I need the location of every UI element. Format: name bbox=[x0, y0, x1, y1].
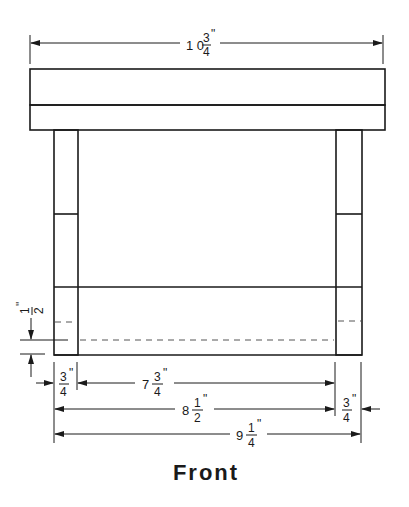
dimension-leg-offset: 1 2 " bbox=[14, 302, 68, 377]
dimension-outer-to-inner: 8 1 2 " bbox=[55, 392, 334, 425]
dim-outer-inner-unit: " bbox=[203, 392, 207, 406]
top-board-upper bbox=[30, 69, 385, 105]
dim-outer-inner-den: 2 bbox=[194, 411, 201, 425]
bottom-apron bbox=[54, 287, 362, 355]
dim-inner-span-num: 3 bbox=[154, 370, 161, 384]
dim-leg-offset-den: 2 bbox=[32, 307, 46, 314]
dim-outer-inner-num: 1 bbox=[194, 396, 201, 410]
dim-inner-span-whole: 7 bbox=[142, 377, 149, 392]
dim-overall-base-num: 1 bbox=[248, 421, 255, 435]
dim-outer-inner-whole: 8 bbox=[182, 403, 189, 418]
dimension-overall-top: 1 0 3 4 " bbox=[30, 27, 383, 64]
dim-overall-top-whole: 1 0 bbox=[186, 38, 204, 53]
dim-right-leg-unit: " bbox=[352, 392, 356, 406]
dimension-overall-base: 9 1 4 " bbox=[55, 417, 360, 450]
dim-inner-span-unit: " bbox=[163, 366, 167, 380]
dim-overall-base-unit: " bbox=[257, 417, 261, 431]
front-view-drawing: 1 0 3 4 " 1 2 " bbox=[0, 0, 409, 507]
dim-leg-offset-unit: " bbox=[14, 302, 28, 306]
dim-left-leg-unit: " bbox=[69, 366, 73, 380]
dim-left-leg-den: 4 bbox=[60, 385, 67, 399]
dim-right-leg-num: 3 bbox=[343, 396, 350, 410]
dim-left-leg-num: 3 bbox=[60, 370, 67, 384]
dimension-left-leg-width: 3 4 " bbox=[36, 366, 73, 399]
dim-overall-top-unit: " bbox=[211, 27, 215, 41]
dim-overall-base-den: 4 bbox=[248, 436, 255, 450]
extension-lines-bottom bbox=[54, 362, 361, 443]
drawing-title: Front bbox=[173, 460, 239, 485]
dim-leg-offset-num: 1 bbox=[18, 307, 32, 314]
hidden-lines bbox=[55, 321, 361, 340]
dim-inner-span-den: 4 bbox=[154, 385, 161, 399]
left-leg bbox=[54, 130, 78, 355]
dim-overall-top-num: 3 bbox=[203, 31, 210, 45]
top-board-lower bbox=[30, 105, 385, 130]
dim-right-leg-den: 4 bbox=[343, 411, 350, 425]
dim-overall-base-whole: 9 bbox=[236, 428, 243, 443]
dim-overall-top-den: 4 bbox=[203, 45, 210, 59]
